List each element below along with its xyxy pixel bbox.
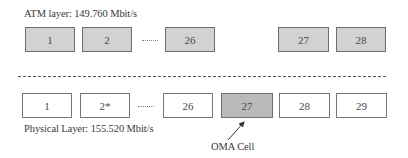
oma-cell-label: OMA Cell <box>211 141 254 152</box>
arrow-icon <box>0 0 408 158</box>
